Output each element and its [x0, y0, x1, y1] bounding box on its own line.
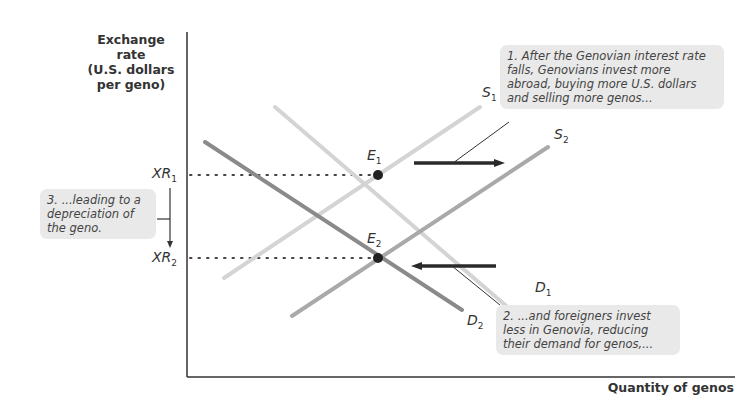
tick-xr1-base: XR: [152, 165, 171, 181]
y-label-line: (U.S. dollars: [78, 62, 184, 77]
label-d2: D2: [467, 312, 484, 331]
tick-xr2-base: XR: [152, 249, 171, 265]
d2-curve: [205, 142, 462, 310]
label-e1: E1: [367, 147, 382, 166]
depreciation-arrowhead: [167, 241, 173, 248]
tick-xr1-sub: 1: [171, 174, 177, 184]
callout-2: 2. ...and foreigners invest less in Geno…: [496, 305, 680, 355]
callout-1: 1. After the Genovian interest rate fall…: [500, 45, 724, 109]
e2-point: [373, 253, 383, 263]
label-d2-base: D: [467, 312, 478, 328]
label-d1-sub: 1: [546, 288, 552, 298]
demand-shift-arrowhead: [411, 262, 422, 270]
callout-3: 3. ...leading to a depreciation of the g…: [40, 189, 156, 239]
callout-1-leader: [453, 122, 509, 163]
y-axis-label: Exchange rate (U.S. dollars per geno): [78, 32, 184, 92]
label-e2-base: E: [367, 230, 376, 246]
label-d1-base: D: [535, 279, 546, 295]
label-s1-sub: 1: [491, 93, 497, 103]
label-e2-sub: 2: [376, 239, 382, 249]
s2-curve: [292, 147, 548, 316]
label-s1-base: S: [482, 84, 491, 100]
label-s1: S1: [482, 84, 497, 103]
y-label-line: per geno): [78, 77, 184, 92]
label-s2: S2: [554, 126, 569, 145]
label-d1: D1: [535, 279, 552, 298]
label-e1-base: E: [367, 147, 376, 163]
callout-2-leader: [452, 266, 500, 305]
y-label-line: Exchange: [78, 32, 184, 47]
label-e1-sub: 1: [376, 156, 382, 166]
label-d2-sub: 2: [478, 321, 484, 331]
label-s2-base: S: [554, 126, 563, 142]
tick-xr2-sub: 2: [171, 258, 177, 268]
x-axis-label: Quantity of genos: [608, 380, 734, 395]
tick-xr2: XR2: [152, 249, 177, 268]
supply-shift-arrowhead: [494, 159, 505, 167]
e1-point: [373, 170, 383, 180]
label-e2: E2: [367, 230, 382, 249]
y-label-line: rate: [78, 47, 184, 62]
tick-xr1: XR1: [152, 165, 177, 184]
label-s2-sub: 2: [563, 135, 569, 145]
